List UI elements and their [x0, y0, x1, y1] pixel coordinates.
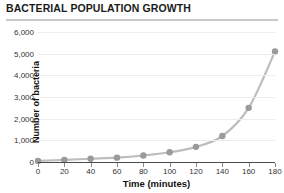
x-axis-tick-label: 180	[260, 167, 284, 176]
page-title: BACTERIAL POPULATION GROWTH	[6, 2, 191, 14]
series-line	[38, 52, 275, 161]
gridline	[38, 119, 275, 120]
gridline	[38, 75, 275, 76]
y-axis-tick-label: 6,000	[0, 28, 34, 37]
data-point	[245, 105, 251, 111]
gridline	[38, 54, 275, 55]
data-point	[166, 149, 172, 155]
plot-area	[38, 32, 275, 162]
gridline	[38, 140, 275, 141]
x-axis-line	[38, 162, 275, 163]
y-axis-tick-label: 1,000	[0, 136, 34, 145]
title-divider	[6, 19, 278, 21]
y-axis-tick-label: 2,000	[0, 114, 34, 123]
data-point	[193, 144, 199, 150]
data-point	[114, 154, 120, 160]
data-point	[219, 133, 225, 139]
chart-page: BACTERIAL POPULATION GROWTH Number of ba…	[0, 0, 284, 193]
y-axis-tick-label: 4,000	[0, 71, 34, 80]
gridline	[38, 97, 275, 98]
y-axis-tick-label: 0	[0, 158, 34, 167]
y-axis-tick-label: 5,000	[0, 49, 34, 58]
gridline	[38, 32, 275, 33]
data-point	[87, 156, 93, 162]
y-axis-tick-label: 3,000	[0, 93, 34, 102]
data-point	[140, 152, 146, 158]
x-axis-title: Time (minutes)	[38, 178, 275, 189]
